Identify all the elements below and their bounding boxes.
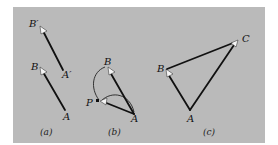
caption-b: (b)	[108, 127, 121, 137]
point-p-marker-icon	[96, 99, 99, 102]
caption-c: (c)	[203, 127, 216, 137]
vector-diagram-figure: B′ A′ B A (a) B P A (b) B C A (c)	[0, 0, 278, 145]
label-b-prime: B′	[28, 18, 39, 29]
label-c-c: C	[242, 33, 250, 44]
label-b: B	[30, 61, 38, 72]
label-c-b: B	[156, 63, 164, 74]
caption-a: (a)	[40, 127, 53, 137]
label-b-b: B	[103, 56, 111, 67]
label-b-a: A	[130, 113, 138, 124]
label-a: A	[62, 111, 70, 122]
label-a-prime: A′	[61, 69, 72, 80]
label-b-p: P	[85, 97, 93, 108]
gray-panel-background	[13, 7, 265, 143]
label-c-a: A	[186, 113, 194, 124]
